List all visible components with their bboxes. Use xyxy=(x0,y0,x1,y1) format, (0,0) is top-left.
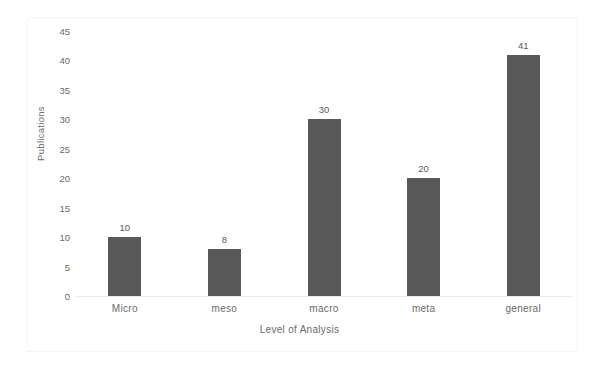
bar-value-label: 20 xyxy=(394,163,454,174)
y-axis-tick-label: 15 xyxy=(48,202,70,213)
bar xyxy=(407,178,440,296)
y-axis-tick-label: 0 xyxy=(48,291,70,302)
bar-value-label: 8 xyxy=(194,234,254,245)
y-axis-tick-label: 10 xyxy=(48,232,70,243)
y-axis-tick-label: 40 xyxy=(48,55,70,66)
x-axis-baseline xyxy=(75,296,573,297)
bar-value-label: 41 xyxy=(493,40,553,51)
bar xyxy=(108,237,141,296)
bar xyxy=(308,119,341,296)
y-axis-title: Publications xyxy=(35,89,46,179)
x-axis-tick-label: Micro xyxy=(70,303,180,314)
y-axis-tick-label: 20 xyxy=(48,173,70,184)
y-axis-tick-labels: 051015202530354045 xyxy=(46,0,70,373)
y-axis-tick-label: 5 xyxy=(48,261,70,272)
bar-value-label: 10 xyxy=(95,222,155,233)
x-axis-title: Level of Analysis xyxy=(0,324,599,335)
y-axis-tick-label: 45 xyxy=(48,26,70,37)
x-axis-tick-label: general xyxy=(468,303,578,314)
clipped-caption-fragment xyxy=(0,0,599,4)
bar xyxy=(208,249,241,296)
plot-area xyxy=(75,31,573,296)
x-axis-tick-label: meta xyxy=(369,303,479,314)
y-axis-tick-label: 30 xyxy=(48,114,70,125)
x-axis-tick-label: macro xyxy=(269,303,379,314)
bar xyxy=(507,55,540,296)
bar-value-label: 30 xyxy=(294,104,354,115)
x-axis-tick-label: meso xyxy=(169,303,279,314)
y-axis-tick-label: 35 xyxy=(48,84,70,95)
y-axis-tick-label: 25 xyxy=(48,143,70,154)
